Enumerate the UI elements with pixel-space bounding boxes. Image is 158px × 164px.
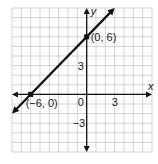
x-tick-label: 3 [112,96,118,108]
point-label: (0, 6) [91,31,117,43]
y-axis-arrow-down-icon [84,146,90,152]
x-axis-arrow-left-icon [12,91,18,97]
data-points: (0, 6)(−6, 0) [26,31,117,110]
tick-labels: xy033−3 [73,5,154,129]
axes [12,8,152,152]
grid-lines [12,8,152,152]
point-marker [28,92,33,97]
y-axis-arrow-up-icon [84,8,90,14]
point-marker [84,34,89,39]
point-label: (−6, 0) [26,97,58,109]
x-axis-label: x [147,80,154,92]
y-tick-label: −3 [73,117,86,129]
x-tick-label: 0 [78,96,84,108]
y-axis-label: y [90,5,98,17]
coordinate-graph: (0, 6)(−6, 0) xy033−3 [0,0,158,164]
y-tick-label: 3 [78,60,84,72]
